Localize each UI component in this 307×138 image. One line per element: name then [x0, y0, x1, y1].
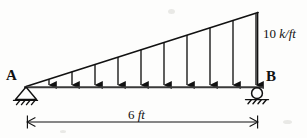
- span-units: ft: [138, 107, 145, 122]
- load-slope-line: [26, 13, 258, 87]
- diagram-canvas: A B 10 k/ft 6 ft: [0, 0, 307, 138]
- load-triangle: [26, 13, 258, 87]
- load-arrows: [49, 14, 256, 85]
- load-units: k/ft: [279, 26, 296, 41]
- load-value: 10: [263, 26, 276, 41]
- span-value: 6: [128, 107, 135, 122]
- support-label-A: A: [6, 68, 17, 83]
- roller-support-B: [246, 88, 269, 104]
- pin-support-A: [14, 87, 38, 105]
- roller-hatching: [246, 100, 269, 104]
- span-length-label: 6 ft: [128, 108, 145, 121]
- load-magnitude-label: 10 k/ft: [263, 27, 296, 40]
- pin-triangle: [16, 87, 37, 100]
- support-label-B: B: [266, 69, 276, 84]
- beam-diagram-svg: [0, 0, 307, 138]
- roller-circle: [252, 88, 263, 99]
- pin-hatching: [14, 100, 38, 104]
